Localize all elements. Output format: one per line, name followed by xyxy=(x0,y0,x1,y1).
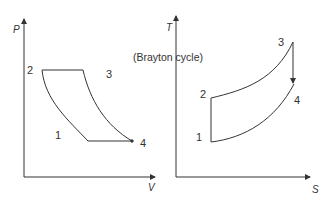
pv-point-4-label: 4 xyxy=(140,138,146,149)
ts-y-axis-label: T xyxy=(166,23,172,33)
pv-process-3-4 xyxy=(83,70,132,141)
pv-diagram xyxy=(24,19,155,177)
diagram-caption: (Brayton cycle) xyxy=(133,52,203,63)
pv-x-axis-label: V xyxy=(148,183,155,193)
ts-diagram xyxy=(176,16,310,177)
pv-process-1-2 xyxy=(42,70,88,141)
pv-point-2-label: 2 xyxy=(27,65,33,76)
ts-process-2-3 xyxy=(211,42,293,98)
ts-point-2-label: 2 xyxy=(200,89,206,100)
ts-point-4-label: 4 xyxy=(294,95,300,106)
ts-point-1-label: 1 xyxy=(196,132,202,143)
pv-point-3-label: 3 xyxy=(106,69,112,80)
ts-process-4-1 xyxy=(211,84,294,142)
brayton-cycle-diagrams xyxy=(0,0,328,200)
pv-y-axis-label: P xyxy=(13,25,20,35)
pv-point-1-label: 1 xyxy=(55,130,61,141)
ts-point-3-label: 3 xyxy=(278,37,284,48)
ts-x-axis-label: S xyxy=(312,185,319,195)
